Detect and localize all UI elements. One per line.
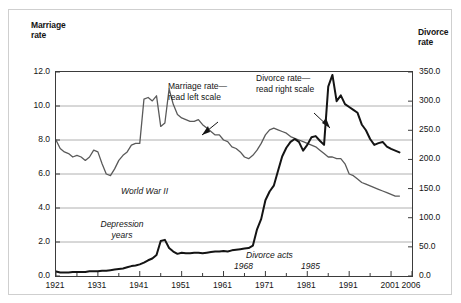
x-axis-tick-label: 1991 — [328, 280, 368, 290]
left-axis-tick-label: 12.0 — [22, 66, 50, 76]
left-axis-tick-label: 0.0 — [22, 270, 50, 280]
chart-figure: Marriage rate Divorce rate 12.010.08.06.… — [8, 9, 452, 295]
plot-svg — [56, 72, 412, 276]
left-axis-tick-label: 6.0 — [22, 168, 50, 178]
x-axis-tick-marks — [56, 271, 412, 276]
left-axis-tick-label: 8.0 — [22, 134, 50, 144]
marriage-callout-line2: read left scale — [168, 92, 221, 102]
right-axis-title: Divorce rate — [418, 27, 461, 47]
x-axis-tick-label: 1941 — [119, 280, 159, 290]
depression-line1: Depression — [101, 219, 144, 229]
marriage-callout-line1: Marriage rate— — [168, 81, 227, 91]
left-axis-title: Marriage rate — [31, 20, 101, 40]
right-axis-tick-label: 100.0 — [419, 212, 453, 222]
depression-line2: years — [112, 230, 133, 240]
x-axis-tick-label: 1931 — [77, 280, 117, 290]
left-axis-tick-label: 2.0 — [22, 236, 50, 246]
right-axis-tick-label: 50.0 — [419, 241, 453, 251]
x-axis-tick-label: 2006 — [391, 280, 431, 290]
divorce-act-year-1985: 1985 — [301, 261, 320, 271]
divorce-callout-line1: Divorce rate— — [256, 73, 310, 83]
plot-area: Marriage rate— read left scale Divorce r… — [55, 71, 413, 277]
divorce-act-year-1968: 1968 — [234, 261, 253, 271]
divorce-rate-callout: Divorce rate— read right scale — [256, 73, 314, 95]
right-axis-title-line1: Divorce — [418, 27, 448, 37]
x-axis-tick-label: 1961 — [203, 280, 243, 290]
x-axis-tick-label: 1971 — [244, 280, 284, 290]
right-axis-tick-label: 150.0 — [419, 183, 453, 193]
right-axis-tick-label: 200.0 — [419, 153, 453, 163]
world-war-2-annotation: World War II — [121, 186, 168, 197]
divorce-acts-annotation: Divorce acts — [246, 250, 293, 261]
right-axis-tick-label: 0.0 — [419, 270, 453, 280]
right-axis-tick-label: 300.0 — [419, 95, 453, 105]
right-axis-tick-label: 350.0 — [419, 66, 453, 76]
right-axis-title-line2: rate — [418, 37, 433, 47]
left-axis-title-line1: Marriage — [31, 20, 66, 30]
left-axis-title-line2: rate — [31, 30, 46, 40]
right-axis-tick-label: 250.0 — [419, 124, 453, 134]
x-axis-tick-label: 1921 — [35, 280, 75, 290]
left-axis-tick-marks — [56, 72, 60, 276]
left-axis-tick-label: 4.0 — [22, 202, 50, 212]
left-axis-tick-label: 10.0 — [22, 100, 50, 110]
x-axis-tick-label: 1981 — [286, 280, 326, 290]
x-axis-tick-label: 1951 — [161, 280, 201, 290]
depression-years-annotation: Depression years — [86, 219, 158, 241]
marriage-rate-callout: Marriage rate— read left scale — [168, 81, 227, 103]
callout-arrows — [202, 113, 330, 135]
divorce-callout-line2: read right scale — [256, 84, 314, 94]
